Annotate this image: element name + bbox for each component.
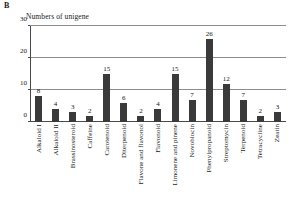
bar-rect[interactable] <box>240 100 247 122</box>
bar-rect[interactable] <box>86 116 93 122</box>
bar-rect[interactable] <box>206 39 213 122</box>
bar-value-label: 15 <box>103 65 110 73</box>
bar-rect[interactable] <box>137 116 144 122</box>
bar-value-label: 3 <box>276 103 280 111</box>
bar-item[interactable]: 4 <box>149 26 166 122</box>
category-label: Brassinosteroid <box>69 124 76 168</box>
category-label: Diterpenoid <box>120 124 127 158</box>
bar-value-label: 6 <box>122 94 126 102</box>
bar-value-label: 2 <box>139 107 143 115</box>
bar-rect[interactable] <box>274 112 281 122</box>
bar-rect[interactable] <box>52 109 59 122</box>
bar-item[interactable]: 15 <box>98 26 115 122</box>
category-label-slot: Novobiocin <box>184 124 201 216</box>
bar-value-label: 8 <box>37 87 41 95</box>
category-label: Tetracycline <box>257 124 264 159</box>
bar-rect[interactable] <box>69 112 76 122</box>
category-label-slot: Zeatin <box>269 124 286 216</box>
category-label-slot: Streptomycin <box>218 124 235 216</box>
bar-value-label: 4 <box>156 100 160 108</box>
bar-item[interactable]: 3 <box>64 26 81 122</box>
category-label-slot: Brassinosteroid <box>64 124 81 216</box>
y-axis-tick-label: 20 <box>20 48 27 55</box>
chart-title: Numbers of unigene <box>26 12 89 22</box>
bar-value-label: 2 <box>259 107 263 115</box>
category-label-slot: Alkaloid II <box>47 124 64 216</box>
y-axis-tick-label: 0 <box>24 112 28 119</box>
bar-item[interactable]: 2 <box>132 26 149 122</box>
bar-item[interactable]: 15 <box>167 26 184 122</box>
category-label: Carotenoid <box>103 124 110 156</box>
bar-rect[interactable] <box>103 74 110 122</box>
x-axis-category-labels: Alkaloid IAlkaloid IIBrassinosteroidCaff… <box>30 124 286 216</box>
category-label: Flavone and flavonol <box>137 124 144 185</box>
bar-item[interactable]: 8 <box>30 26 47 122</box>
category-label-slot: Terpenoid <box>235 124 252 216</box>
bar-rect[interactable] <box>223 84 230 122</box>
category-label-slot: Limonene and pinene <box>167 124 184 216</box>
category-label: Caffeine <box>86 124 93 148</box>
bar-value-label: 15 <box>172 65 179 73</box>
bar-item[interactable]: 7 <box>235 26 252 122</box>
category-label-slot: Caffeine <box>81 124 98 216</box>
category-label-slot: Flavone and flavonol <box>132 124 149 216</box>
bar-rect[interactable] <box>154 109 161 122</box>
bar-value-label: 3 <box>71 103 75 111</box>
panel-label: B <box>4 1 9 11</box>
category-label: Novobiocin <box>189 124 196 158</box>
bar-value-label: 26 <box>206 30 213 38</box>
bar-value-label: 4 <box>54 100 58 108</box>
category-label: Streptomycin <box>223 124 230 162</box>
y-axis-tick-label: 10 <box>20 80 27 87</box>
bar-rect[interactable] <box>257 116 264 122</box>
figure-panel-b: B Numbers of unigene 0102030 84321562415… <box>0 0 289 217</box>
category-label-slot: Diterpenoid <box>115 124 132 216</box>
bar-rect[interactable] <box>172 74 179 122</box>
bar-rect[interactable] <box>120 103 127 122</box>
category-label: Flavonoid <box>154 124 161 153</box>
category-label: Alkaloid II <box>52 124 59 155</box>
bar-value-label: 7 <box>190 91 194 99</box>
bar-item[interactable]: 2 <box>252 26 269 122</box>
category-label-slot: Flavonoid <box>149 124 166 216</box>
category-label: Phenylpropanoid <box>206 124 213 173</box>
category-label-slot: Alkaloid I <box>30 124 47 216</box>
bar-item[interactable]: 26 <box>201 26 218 122</box>
bar-item[interactable]: 6 <box>115 26 132 122</box>
bar-item[interactable]: 2 <box>81 26 98 122</box>
category-label: Alkaloid I <box>35 124 42 153</box>
plot-area: 0102030 8432156241572612723 <box>30 26 286 122</box>
category-label-slot: Phenylpropanoid <box>201 124 218 216</box>
bar-item[interactable]: 4 <box>47 26 64 122</box>
bar-item[interactable]: 7 <box>184 26 201 122</box>
bar-value-label: 12 <box>223 75 230 83</box>
bar-value-label: 7 <box>242 91 246 99</box>
category-label-slot: Tetracycline <box>252 124 269 216</box>
category-label: Limonene and pinene <box>172 124 179 186</box>
category-label: Terpenoid <box>240 124 247 153</box>
bar-rect[interactable] <box>189 100 196 122</box>
category-label: Zeatin <box>274 124 281 142</box>
category-label-slot: Carotenoid <box>98 124 115 216</box>
y-axis-tick-label: 30 <box>20 16 27 23</box>
bar-value-label: 2 <box>88 107 92 115</box>
bar-series: 8432156241572612723 <box>30 26 286 122</box>
bar-rect[interactable] <box>35 96 42 122</box>
bar-item[interactable]: 12 <box>218 26 235 122</box>
bar-item[interactable]: 3 <box>269 26 286 122</box>
